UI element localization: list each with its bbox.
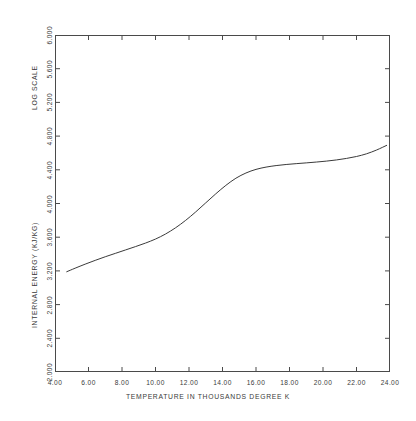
figure-container: 4.006.008.0010.0012.0014.0016.0018.0020.… — [0, 0, 416, 421]
x-tick-label: 12.00 — [180, 379, 199, 386]
data-series-line — [67, 145, 387, 271]
x-axis-title: TEMPERATURE IN THOUSANDS DEGREE K — [0, 393, 416, 400]
y-tick-label: 5.600 — [46, 60, 53, 79]
x-tick-label: 22.00 — [347, 379, 366, 386]
x-tick-label: 20.00 — [314, 379, 333, 386]
plot-canvas — [55, 35, 390, 372]
y-tick-label: 4.800 — [46, 127, 53, 146]
y-tick-marks — [55, 35, 390, 372]
x-tick-marks — [55, 35, 390, 372]
y-tick-label: 3.200 — [46, 262, 53, 281]
y-tick-label: 6.000 — [46, 26, 53, 45]
x-tick-label: 6.00 — [81, 379, 95, 386]
y-axis-title-scale: LOG SCALE — [31, 65, 38, 110]
y-tick-label: 4.000 — [46, 194, 53, 213]
x-tick-label: 14.00 — [213, 379, 232, 386]
y-tick-label: 2.400 — [46, 329, 53, 348]
x-tick-label: 16.00 — [247, 379, 266, 386]
y-tick-label: 3.600 — [46, 228, 53, 247]
x-tick-label: 8.00 — [115, 379, 129, 386]
caption-strip — [0, 410, 416, 421]
y-axis-title-energy: INTERNAL ENERGY (KJ/KG) — [31, 222, 38, 328]
y-tick-label: 2.000 — [46, 363, 53, 382]
x-tick-label: 10.00 — [146, 379, 165, 386]
x-tick-label: 18.00 — [280, 379, 299, 386]
x-tick-label: 24.00 — [381, 379, 400, 386]
y-tick-label: 5.200 — [46, 93, 53, 112]
y-tick-label: 4.400 — [46, 161, 53, 180]
y-tick-label: 2.800 — [46, 296, 53, 315]
